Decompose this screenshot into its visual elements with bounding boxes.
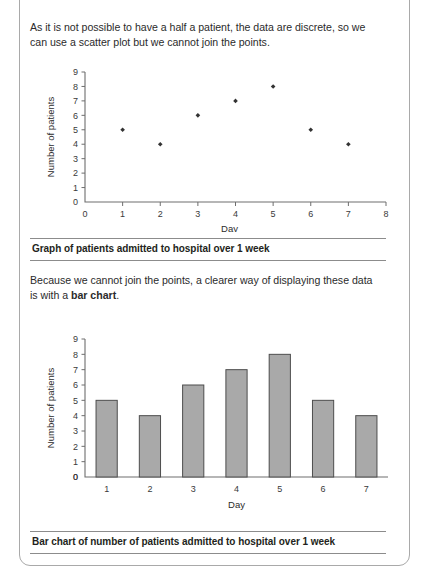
y-tick-label: 1: [73, 183, 78, 193]
x-tick-label: 1: [120, 209, 125, 219]
scatter-point: [120, 127, 125, 132]
x-tick-label: 3: [191, 484, 196, 494]
scatter-point: [233, 99, 238, 104]
x-axis-title: Day: [228, 499, 245, 510]
scatter-point: [196, 113, 201, 118]
y-tick-label: 5: [73, 396, 78, 406]
y-tick-label: 7: [73, 365, 78, 375]
scatter-point: [158, 142, 163, 147]
x-tick-label: 7: [364, 484, 369, 494]
page-content: As it is not possible to have a half a p…: [30, 0, 400, 576]
x-tick-label: 3: [195, 209, 200, 219]
y-tick-label: 4: [73, 411, 78, 421]
bar-chart-svg: 012345678912345670DayNumber of patients: [36, 327, 400, 523]
y-tick-label: 3: [73, 426, 78, 436]
bar: [356, 416, 377, 477]
bar: [139, 416, 160, 477]
y-axis-title: Number of patients: [45, 368, 56, 449]
paragraph-bar-intro: Because we cannot join the points, a cle…: [30, 273, 382, 304]
y-tick-label: 7: [73, 96, 78, 106]
x-tick-label: 8: [383, 209, 388, 219]
figure-caption-bar: Bar chart of number of patients admitted…: [30, 531, 386, 554]
bar-chart-figure: 012345678912345670DayNumber of patients: [36, 327, 400, 523]
scatter-axes: [85, 72, 386, 202]
x-tick-label: 6: [321, 484, 326, 494]
y-tick-label: 5: [73, 125, 78, 135]
y-tick-label: 9: [73, 67, 78, 77]
x-tick-label: 1: [104, 484, 109, 494]
y-tick-label: 2: [73, 442, 78, 452]
scatter-point: [346, 142, 351, 147]
y-tick-label: 3: [73, 154, 78, 164]
scatter-plot-svg: 0123456789012345678DayNumber of patients: [36, 60, 400, 232]
x-tick-label: 7: [346, 209, 351, 219]
bar: [312, 400, 333, 477]
bar: [269, 354, 290, 477]
y-tick-label: 6: [73, 380, 78, 390]
x-axis-title: Day: [221, 223, 238, 232]
paragraph-bar-text-tail: .: [116, 289, 119, 301]
y-tick-label: 6: [73, 111, 78, 121]
x-tick-label: 2: [158, 209, 163, 219]
x-tick-label: 5: [271, 209, 276, 219]
x-tick-label: 0: [82, 209, 87, 219]
y-tick-label: 1: [73, 457, 78, 467]
y-tick-label: 0: [73, 197, 78, 207]
scatter-point: [271, 84, 276, 89]
x-tick-label: 5: [277, 484, 282, 494]
paragraph-scatter-intro: As it is not possible to have a half a p…: [30, 20, 382, 51]
bar: [226, 370, 247, 477]
bar: [183, 385, 204, 477]
scatter-plot-figure: 0123456789012345678DayNumber of patients: [36, 60, 400, 232]
y-tick-label: 8: [73, 82, 78, 92]
y-tick-label: 8: [73, 350, 78, 360]
paragraph-bar-bold-term: bar chart: [71, 289, 116, 301]
x-tick-label: 4: [234, 484, 239, 494]
y-tick-label: 0: [73, 472, 78, 482]
x-tick-label: 2: [147, 484, 152, 494]
y-tick-label: 4: [73, 139, 78, 149]
y-tick-label: 9: [73, 334, 78, 344]
bar: [96, 400, 117, 477]
y-tick-label: 2: [73, 168, 78, 178]
y-axis-title: Number of patients: [45, 97, 56, 178]
x-tick-label: 6: [308, 209, 313, 219]
figure-caption-scatter: Graph of patients admitted to hospital o…: [30, 238, 386, 261]
x-tick-label: 4: [233, 209, 238, 219]
scatter-point: [308, 127, 313, 132]
